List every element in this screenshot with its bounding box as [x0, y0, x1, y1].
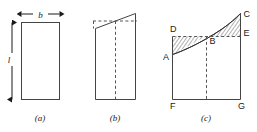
point-c-label: C — [244, 9, 251, 19]
width-dimension-b: b — [22, 10, 60, 20]
width-dimension-label: b — [38, 10, 43, 20]
point-a-label: A — [163, 52, 169, 62]
panel-a: b l (a) — [8, 10, 60, 124]
figure-container: b l (a) (b) — [0, 0, 257, 132]
panel-b: (b) — [93, 14, 137, 124]
point-g-label: G — [238, 101, 245, 111]
panel-a-rectangle — [22, 23, 60, 100]
panel-c-caption: (c) — [201, 113, 211, 123]
hatched-region-bce — [207, 14, 241, 37]
diagram-canvas: b l (a) (b) — [0, 0, 257, 132]
panel-a-caption: (a) — [35, 113, 46, 123]
point-e-label: E — [244, 28, 250, 38]
length-dimension-l: l — [8, 23, 12, 100]
point-d-label: D — [170, 24, 177, 34]
point-f-label: F — [170, 101, 176, 111]
point-b-label: B — [210, 36, 216, 46]
panel-b-caption: (b) — [110, 113, 121, 123]
panel-c: A B C D E F G (c) — [163, 9, 251, 124]
length-dimension-label: l — [8, 55, 11, 65]
